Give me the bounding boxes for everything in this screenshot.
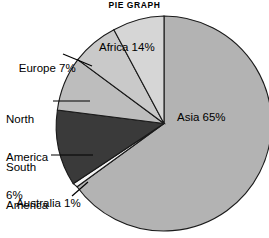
slice-label-europe-text: Europe 7% [19,62,76,74]
slice-label-australia-text: Australia 1% [16,197,81,209]
slice-label-australia: Australia 1% [4,184,81,222]
slice-label-asia: Asia 65% [177,111,226,124]
pie-chart-figure: PIE GRAPH Europe 7% North America 6% Sou… [0,0,269,238]
slice-label-asia-text: Asia 65% [177,111,226,123]
slice-label-africa-text: Africa 14% [99,41,155,53]
slice-label-africa: Africa 14% [99,41,155,54]
slice-label-south-america-line1: South [6,161,48,174]
slice-label-europe: Europe 7% [6,49,76,87]
slice-label-north-america-line1: North [6,113,48,126]
slice-label-south-america-line3: 7% [6,237,48,238]
